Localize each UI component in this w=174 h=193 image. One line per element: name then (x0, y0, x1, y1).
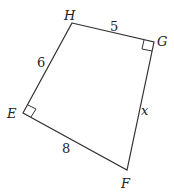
side-label-GF: x (141, 103, 149, 118)
vertex-label-E: E (6, 106, 17, 121)
side-label-HG: 5 (110, 19, 118, 34)
vertex-label-G: G (157, 34, 167, 49)
right-angle-marker-E (28, 105, 36, 117)
vertex-label-F: F (120, 176, 131, 191)
quadrilateral-diagram: H G F E 5 x 8 6 (0, 0, 174, 193)
vertex-label-H: H (63, 8, 76, 23)
diagram-canvas: H G F E 5 x 8 6 (0, 0, 174, 193)
side-label-EH: 6 (37, 55, 45, 70)
side-label-FE: 8 (62, 141, 70, 156)
quadrilateral-EFGH (23, 23, 154, 170)
